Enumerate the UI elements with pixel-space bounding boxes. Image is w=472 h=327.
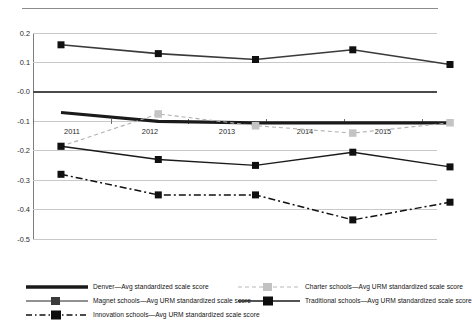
series-innovation-schools: [58, 171, 454, 224]
data-point: [252, 56, 259, 63]
legend-swatch-magnet: [26, 295, 88, 306]
data-point: [252, 162, 259, 169]
legend-item-magnet[interactable]: Magnet schools—Avg URM standardized scal…: [26, 295, 251, 306]
data-point: [155, 156, 162, 163]
data-point: [252, 122, 259, 130]
data-point: [155, 50, 162, 57]
data-point: [447, 199, 454, 206]
series-magnet-schools: [58, 143, 454, 171]
legend-label: Innovation schools—Avg URM standardized …: [93, 311, 260, 318]
legend-label: Denver—Avg standardized scale score: [93, 283, 209, 290]
data-point: [349, 149, 356, 156]
legend-item-innovation[interactable]: Innovation schools—Avg URM standardized …: [26, 309, 260, 320]
data-point: [349, 129, 357, 137]
legend-swatch-innovation: [26, 309, 88, 320]
legend-swatch-charter: [238, 281, 300, 292]
data-point: [252, 191, 259, 198]
series-traditional-schools: [58, 41, 454, 68]
legend-item-denver[interactable]: Denver—Avg standardized scale score: [26, 281, 209, 292]
data-point: [349, 46, 356, 53]
data-point: [58, 41, 65, 48]
data-point: [155, 191, 162, 198]
data-point: [349, 216, 356, 223]
legend-swatch-denver: [26, 281, 88, 292]
legend-item-traditional[interactable]: Traditional schools—Avg URM standardized…: [238, 295, 472, 306]
legend-item-charter[interactable]: Charter schools—Avg URM standardized sca…: [238, 281, 463, 292]
data-point: [58, 143, 65, 150]
data-point: [58, 171, 65, 178]
legend-label: Traditional schools—Avg URM standardized…: [305, 297, 472, 304]
legend-label: Charter schools—Avg URM standardized sca…: [305, 283, 463, 290]
legend-swatch-traditional: [238, 295, 300, 306]
series-denver: [61, 113, 450, 123]
data-point: [155, 110, 163, 118]
legend-label: Magnet schools—Avg URM standardized scal…: [93, 297, 251, 304]
data-point: [447, 163, 454, 170]
data-point: [447, 61, 454, 68]
data-point: [446, 119, 454, 127]
chart-legend: Denver—Avg standardized scale score Magn…: [0, 279, 440, 325]
